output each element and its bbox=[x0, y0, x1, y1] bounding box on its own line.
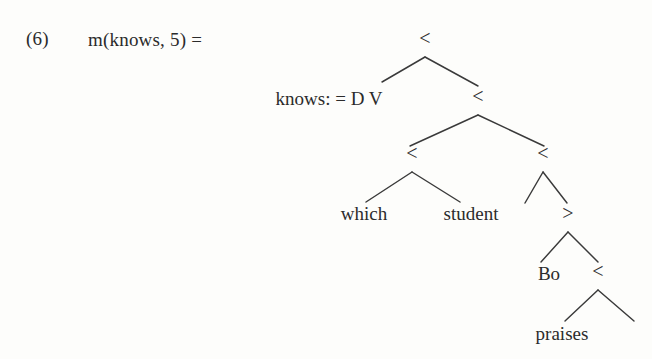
figure-container: (6) m(knows, 5) = <knows: = D V<<<whichs… bbox=[0, 0, 652, 359]
tree-branch-n5-right bbox=[598, 290, 634, 321]
tree-node-n3r: < bbox=[537, 142, 548, 164]
tree-branch-root-left bbox=[382, 57, 425, 82]
tree-branch-n2-right bbox=[478, 115, 544, 146]
tree-node-student: student bbox=[444, 203, 500, 224]
tree-node-bo: Bo bbox=[538, 263, 560, 284]
tree-branch-n3l-right bbox=[412, 172, 460, 202]
tree-branch-n3r-right bbox=[543, 172, 567, 203]
tree-branch-n5-left bbox=[565, 290, 598, 321]
tree-node-n5: < bbox=[592, 260, 603, 282]
tree-branch-n3r-left bbox=[525, 172, 543, 203]
tree-branch-root-right bbox=[425, 57, 478, 86]
tree-branch-n2-left bbox=[410, 115, 478, 146]
tree-branch-n3l-left bbox=[366, 172, 412, 202]
tree-branch-gt-left bbox=[541, 232, 568, 262]
tree-node-praises: praises bbox=[536, 323, 589, 344]
tree-node-n3l: < bbox=[406, 142, 417, 164]
derivation-tree: <knows: = D V<<<whichstudent>Bo<praises bbox=[0, 0, 652, 359]
tree-node-which: which bbox=[341, 203, 388, 224]
tree-node-gt: > bbox=[562, 202, 573, 224]
tree-node-root: < bbox=[419, 27, 430, 49]
tree-branch-gt-right bbox=[568, 232, 598, 262]
tree-node-knows: knows: = D V bbox=[276, 88, 383, 109]
tree-node-layer: <knows: = D V<<<whichstudent>Bo<praises bbox=[276, 27, 604, 344]
tree-node-n2: < bbox=[472, 85, 483, 107]
